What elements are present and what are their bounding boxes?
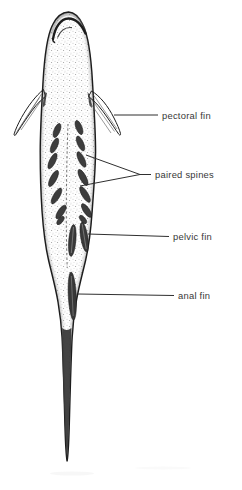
anal-fin-leader bbox=[78, 294, 174, 296]
pelvic-fin-leader bbox=[88, 234, 169, 237]
pelvic-fin-label: pelvic fin bbox=[173, 231, 212, 242]
anal-fin-label: anal fin bbox=[178, 290, 210, 301]
figure-canvas: pectoral fin paired spines pelvic fin an… bbox=[0, 0, 242, 490]
fish-ventral-diagram: pectoral fin paired spines pelvic fin an… bbox=[0, 0, 242, 490]
scan-smudges bbox=[50, 467, 191, 476]
pectoral-fin-label: pectoral fin bbox=[162, 110, 211, 121]
paired-spines-label: paired spines bbox=[155, 169, 214, 180]
